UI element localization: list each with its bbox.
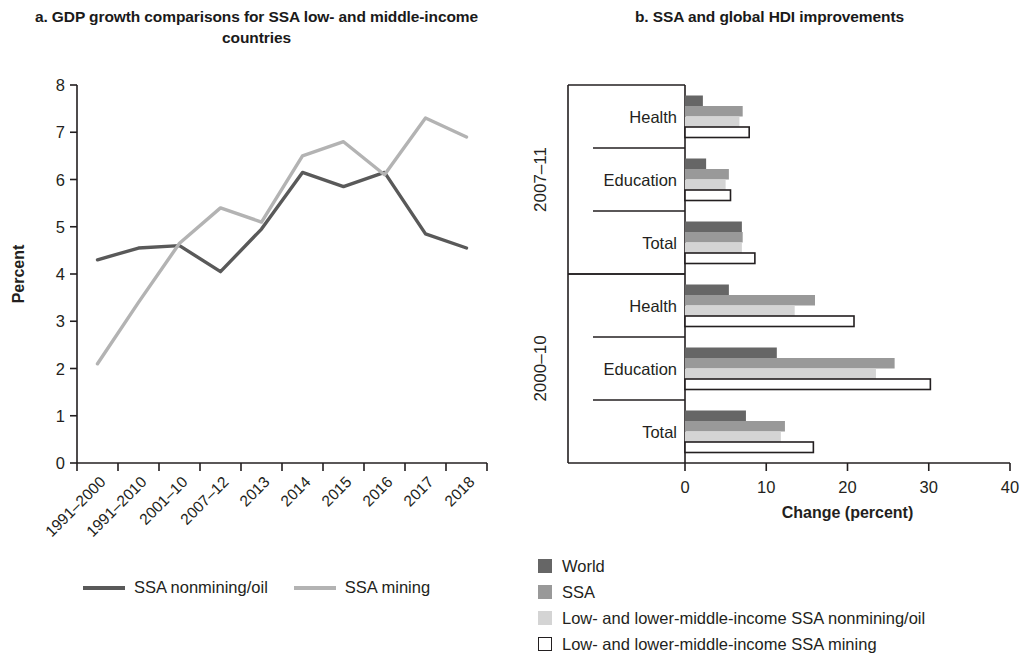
legend-swatch-low-income-mining xyxy=(538,637,552,651)
bar-200711-total-series0 xyxy=(685,222,742,233)
legend-label-mining: SSA mining xyxy=(345,578,430,597)
legend-swatch-low-income-nonmining xyxy=(538,611,552,625)
panel-a-legend: SSA nonmining/oil SSA mining xyxy=(0,578,513,597)
category-label: Health xyxy=(629,108,677,126)
x-tick-label: 0 xyxy=(680,478,689,496)
y-tick-label: 7 xyxy=(56,123,65,141)
bar-200010-health-series3 xyxy=(685,316,854,327)
legend-label-nonmining: SSA nonmining/oil xyxy=(134,578,268,597)
legend-item-ssa-mining: SSA mining xyxy=(294,578,430,597)
x-tick-label: 2018 xyxy=(441,473,477,509)
category-label: Total xyxy=(642,234,677,252)
bar-200010-total-series1 xyxy=(685,421,785,432)
x-tick-label: 30 xyxy=(920,478,938,496)
bar-200010-health-series1 xyxy=(685,295,815,306)
x-tick-label: 2014 xyxy=(277,473,314,510)
y-tick-label: 2 xyxy=(56,360,65,378)
category-label: Education xyxy=(604,360,677,378)
category-label: Total xyxy=(642,423,677,441)
legend-label-low-income-nonmining: Low- and lower-middle-income SSA nonmini… xyxy=(562,609,925,628)
line-chart-svg: 012345678Percent1991–20001991–20102001–1… xyxy=(0,0,513,570)
bar-200711-education-series0 xyxy=(685,159,706,170)
bar-200010-education-series0 xyxy=(685,348,777,359)
bar-200010-total-series3 xyxy=(685,442,813,453)
x-tick-label: 20 xyxy=(838,478,856,496)
x-tick-label: 2013 xyxy=(236,473,272,509)
bar-200010-education-series2 xyxy=(685,369,876,380)
x-tick-label: 2015 xyxy=(318,473,354,509)
panel-b-hdi-improvements: b. SSA and global HDI improvements 01020… xyxy=(513,0,1026,665)
bar-200010-education-series1 xyxy=(685,358,895,369)
y-axis-label: Percent xyxy=(10,244,27,303)
group-label-period: 2007–11 xyxy=(531,147,550,212)
legend-label-low-income-mining: Low- and lower-middle-income SSA mining xyxy=(562,635,877,654)
bar-200711-total-series2 xyxy=(685,243,742,254)
panel-a-gdp-growth: a. GDP growth comparisons for SSA low- a… xyxy=(0,0,513,665)
bar-200711-education-series1 xyxy=(685,169,729,180)
y-tick-label: 1 xyxy=(56,407,65,425)
x-tick-label: 2016 xyxy=(359,473,395,509)
legend-label-ssa: SSA xyxy=(562,583,595,602)
bar-chart-svg: 010203040Change (percent)2007–11HealthEd… xyxy=(513,0,1026,545)
bar-200010-health-series2 xyxy=(685,306,795,317)
bar-200711-total-series1 xyxy=(685,232,743,243)
group-label-period: 2000–10 xyxy=(531,335,550,401)
category-label: Education xyxy=(604,171,677,189)
bar-200711-education-series2 xyxy=(685,180,726,191)
category-label: Health xyxy=(629,297,677,315)
bar-200711-total-series3 xyxy=(685,253,755,264)
legend-item-low-income-nonmining: Low- and lower-middle-income SSA nonmini… xyxy=(538,605,1026,631)
x-tick-label: 2017 xyxy=(400,473,436,509)
y-tick-label: 5 xyxy=(56,218,65,236)
legend-label-world: World xyxy=(562,557,605,576)
legend-swatch-world xyxy=(538,559,552,573)
bar-200711-health-series0 xyxy=(685,96,703,107)
bar-200711-health-series2 xyxy=(685,117,739,128)
bar-200010-education-series3 xyxy=(685,379,930,390)
panel-b-legend: World SSA Low- and lower-middle-income S… xyxy=(538,553,1026,657)
legend-item-world: World xyxy=(538,553,1026,579)
bar-200711-education-series3 xyxy=(685,190,731,201)
y-tick-label: 8 xyxy=(56,76,65,94)
y-tick-label: 6 xyxy=(56,171,65,189)
legend-item-low-income-mining: Low- and lower-middle-income SSA mining xyxy=(538,631,1026,657)
legend-swatch-line-nonmining xyxy=(83,586,125,590)
bar-200711-health-series3 xyxy=(685,127,749,138)
bar-200010-total-series0 xyxy=(685,411,746,422)
bar-200010-health-series0 xyxy=(685,285,729,296)
x-tick-label: 40 xyxy=(1001,478,1019,496)
x-axis-label: Change (percent) xyxy=(782,504,914,521)
x-tick-label: 10 xyxy=(757,478,775,496)
legend-item-ssa-nonmining-oil: SSA nonmining/oil xyxy=(83,578,268,597)
legend-item-ssa: SSA xyxy=(538,579,1026,605)
y-tick-label: 3 xyxy=(56,312,65,330)
legend-swatch-ssa xyxy=(538,585,552,599)
y-tick-label: 4 xyxy=(56,265,65,283)
series-line-ssa-mining xyxy=(98,118,467,364)
legend-swatch-line-mining xyxy=(294,586,336,590)
bar-200010-total-series2 xyxy=(685,432,781,443)
bar-200711-health-series1 xyxy=(685,106,743,117)
y-tick-label: 0 xyxy=(56,454,65,472)
